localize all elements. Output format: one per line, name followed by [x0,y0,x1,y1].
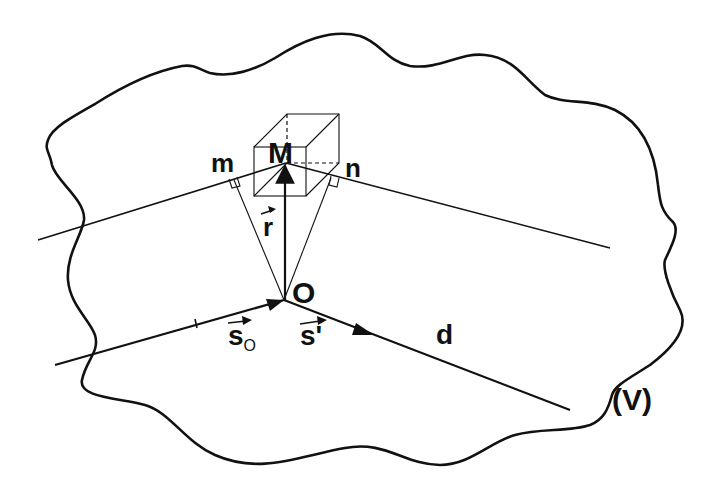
label-n: n [345,153,361,183]
tick-mark [195,319,197,328]
O-to-m-line [234,180,284,300]
right-angle-mark-n [329,176,339,187]
label-d: d [436,319,453,350]
outgoing-arrowhead [352,323,374,335]
label-r: r [263,212,273,242]
label-region-V: (V) [612,383,652,416]
region-v-outline [47,34,683,465]
incoming-arrowhead [266,299,284,311]
volume-element-cube [254,114,339,196]
outgoing-ray-d [284,300,570,410]
left-ray-to-M [38,163,286,240]
ray-geometry-diagram: M m n r O sO s' d (V) [0,0,716,498]
label-s0: sO [228,320,256,354]
label-s0-base: s [228,320,244,351]
label-M: M [268,136,293,169]
label-m: m [211,148,234,178]
label-O: O [292,276,315,309]
incoming-ray [55,300,284,365]
right-ray-from-M [286,163,610,248]
label-s-prime: s' [300,320,322,351]
label-s0-subscript: O [244,337,256,354]
